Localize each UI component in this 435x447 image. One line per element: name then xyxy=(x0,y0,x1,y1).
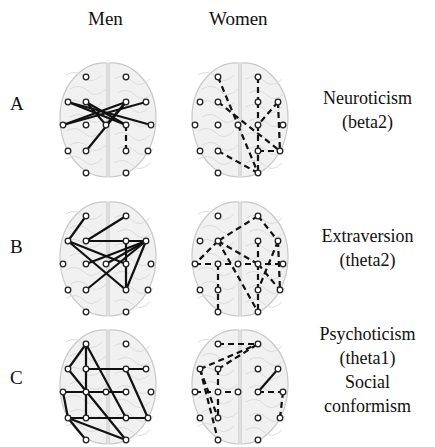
electrode-node xyxy=(83,366,89,372)
electrode-node xyxy=(123,74,129,80)
electrode-node xyxy=(255,309,261,315)
electrode-node xyxy=(192,389,198,395)
electrode-node xyxy=(145,287,151,293)
electrode-node xyxy=(277,415,283,421)
electrode-node xyxy=(255,261,261,267)
electrode-node xyxy=(83,99,89,105)
electrode-node xyxy=(83,261,89,267)
electrode-node xyxy=(143,238,149,244)
electrode-node xyxy=(83,213,89,219)
electrode-node xyxy=(215,261,221,267)
electrode-node xyxy=(65,415,71,421)
electrode-node xyxy=(255,437,261,443)
electrode-node xyxy=(60,389,66,395)
electrode-node xyxy=(60,261,66,267)
brain-map-b-women xyxy=(190,194,290,319)
electrode-node xyxy=(143,99,149,105)
electrode-node xyxy=(275,366,281,372)
electrode-node xyxy=(123,389,129,395)
electrode-node xyxy=(83,148,89,154)
electrode-node xyxy=(255,366,261,372)
electrode-node xyxy=(215,74,221,80)
electrode-node xyxy=(65,99,71,105)
electrode-node xyxy=(103,122,109,128)
trait-label-a: Neuroticism (beta2) xyxy=(300,86,435,134)
electrode-node xyxy=(197,99,203,105)
electrode-node xyxy=(83,437,89,443)
electrode-node xyxy=(215,99,221,105)
trait-label-b: Extraversion (theta2) xyxy=(300,224,435,272)
electrode-node xyxy=(145,148,151,154)
electrode-node xyxy=(65,148,71,154)
row-label-b: B xyxy=(10,236,23,258)
electrode-node xyxy=(83,74,89,80)
electrode-node xyxy=(215,287,221,293)
electrode-node xyxy=(148,389,154,395)
electrode-node xyxy=(123,261,129,267)
electrode-node xyxy=(255,122,261,128)
electrode-node xyxy=(83,170,89,176)
electrode-node xyxy=(83,287,89,293)
electrode-node xyxy=(123,170,129,176)
electrode-node xyxy=(275,238,281,244)
electrode-node xyxy=(215,437,221,443)
electrode-node xyxy=(83,309,89,315)
electrode-node xyxy=(192,122,198,128)
electrode-node xyxy=(65,238,71,244)
electrode-node xyxy=(83,389,89,395)
brain-map-b-men xyxy=(58,194,158,319)
electrode-node xyxy=(65,287,71,293)
column-header-men: Men xyxy=(88,8,123,30)
electrode-node xyxy=(255,341,261,347)
electrode-node xyxy=(103,389,109,395)
electrode-node xyxy=(277,148,283,154)
electrode-node xyxy=(197,366,203,372)
electrode-node xyxy=(60,122,66,128)
electrode-node xyxy=(280,122,286,128)
electrode-node xyxy=(280,261,286,267)
electrode-node xyxy=(65,366,71,372)
electrode-node xyxy=(275,99,281,105)
electrode-node xyxy=(148,261,154,267)
electrode-node xyxy=(235,389,241,395)
electrode-node xyxy=(235,261,241,267)
brain-map-a-women xyxy=(190,55,290,180)
brain-map-c-women xyxy=(190,322,290,447)
electrode-node xyxy=(255,415,261,421)
electrode-node xyxy=(148,122,154,128)
electrode-node xyxy=(215,389,221,395)
electrode-node xyxy=(123,238,129,244)
electrode-node xyxy=(123,415,129,421)
electrode-node xyxy=(215,148,221,154)
electrode-node xyxy=(123,122,129,128)
electrode-node xyxy=(255,99,261,105)
electrode-node xyxy=(215,309,221,315)
electrode-node xyxy=(123,309,129,315)
electrode-node xyxy=(123,341,129,347)
electrode-node xyxy=(83,415,89,421)
brain-map-a-men xyxy=(58,55,158,180)
electrode-node xyxy=(123,437,129,443)
electrode-node xyxy=(123,99,129,105)
electrode-node xyxy=(123,148,129,154)
electrode-node xyxy=(235,122,241,128)
electrode-node xyxy=(215,341,221,347)
electrode-node xyxy=(215,170,221,176)
column-header-women: Women xyxy=(209,8,268,30)
electrode-node xyxy=(255,74,261,80)
electrode-node xyxy=(192,261,198,267)
electrode-node xyxy=(123,213,129,219)
electrode-node xyxy=(197,287,203,293)
trait-label-c: Psychoticism (theta1) Social conformism xyxy=(300,322,435,418)
electrode-node xyxy=(143,366,149,372)
electrode-node xyxy=(83,238,89,244)
electrode-node xyxy=(103,261,109,267)
electrode-node xyxy=(215,213,221,219)
electrode-node xyxy=(123,287,129,293)
electrode-node xyxy=(197,415,203,421)
electrode-node xyxy=(277,287,283,293)
row-label-c: C xyxy=(10,367,23,389)
electrode-node xyxy=(255,238,261,244)
electrode-node xyxy=(197,238,203,244)
electrode-node xyxy=(145,415,151,421)
